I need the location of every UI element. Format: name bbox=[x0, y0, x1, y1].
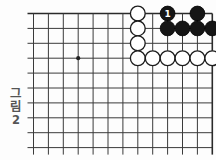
white-stone[interactable] bbox=[130, 6, 145, 21]
board-stones[interactable]: 1 bbox=[130, 6, 216, 66]
black-stone[interactable] bbox=[190, 21, 205, 36]
white-stone[interactable] bbox=[130, 51, 145, 66]
white-stone[interactable] bbox=[130, 21, 145, 36]
go-board[interactable]: 1 bbox=[0, 0, 216, 160]
black-stone[interactable] bbox=[175, 21, 190, 36]
white-stone[interactable] bbox=[190, 51, 205, 66]
white-stone[interactable] bbox=[175, 51, 190, 66]
star-point bbox=[76, 56, 80, 60]
white-stone[interactable] bbox=[130, 36, 145, 51]
white-stone[interactable] bbox=[145, 51, 160, 66]
white-stone[interactable] bbox=[160, 51, 175, 66]
board-star-points bbox=[76, 56, 80, 60]
black-stone[interactable] bbox=[205, 21, 216, 36]
move-number-label: 1 bbox=[164, 9, 170, 19]
black-stone[interactable] bbox=[190, 6, 205, 21]
black-stone[interactable] bbox=[160, 21, 175, 36]
white-stone[interactable] bbox=[205, 51, 216, 66]
go-diagram-figure: 그림 2 1 bbox=[0, 0, 216, 160]
